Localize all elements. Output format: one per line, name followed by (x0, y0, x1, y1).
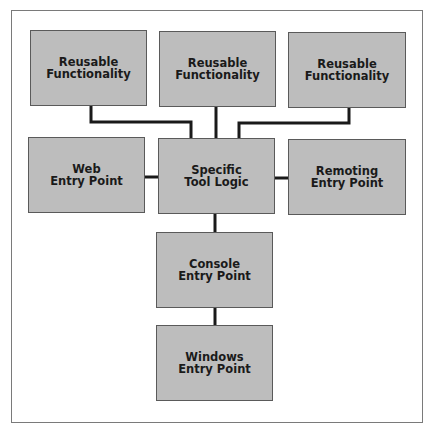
node-specific-tool-logic: Specific Tool Logic (158, 138, 275, 214)
node-reusable-functionality-1: Reusable Functionality (30, 30, 147, 106)
node-label-line-2: Tool Logic (184, 176, 248, 188)
node-label-line-2: Entry Point (178, 363, 251, 375)
node-label-line-2: Entry Point (178, 270, 251, 282)
edge-reusable-3-to-specific (239, 108, 349, 138)
node-console-entry-point: Console Entry Point (156, 232, 273, 308)
node-label-line-2: Entry Point (311, 177, 384, 189)
node-web-entry-point: Web Entry Point (28, 137, 145, 213)
node-label-line-2: Functionality (46, 68, 131, 80)
node-label-line-2: Functionality (175, 69, 260, 81)
node-remoting-entry-point: Remoting Entry Point (288, 139, 406, 215)
edge-reusable-1-to-specific (91, 106, 191, 138)
node-label-line-2: Functionality (305, 70, 390, 82)
node-reusable-functionality-2: Reusable Functionality (159, 31, 276, 107)
node-reusable-functionality-3: Reusable Functionality (288, 32, 406, 108)
node-windows-entry-point: Windows Entry Point (156, 325, 273, 401)
node-label-line-2: Entry Point (50, 175, 123, 187)
